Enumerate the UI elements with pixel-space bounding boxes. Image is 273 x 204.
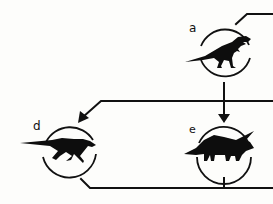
node-a <box>185 29 251 76</box>
connector-d-to-right <box>81 179 273 188</box>
hadrosaur-silhouette-icon <box>20 138 96 163</box>
node-d-label: d <box>33 120 41 132</box>
connector-right-to-d <box>84 101 273 116</box>
arrowhead-to-e-icon <box>218 114 230 123</box>
connector-a-to-right <box>236 14 273 24</box>
node-a-label: a <box>189 22 196 34</box>
node-e-label: e <box>189 124 196 135</box>
node-d <box>20 127 96 177</box>
dinosaur-relationship-diagram <box>0 0 273 204</box>
tyrannosaur-silhouette-icon <box>185 36 251 68</box>
